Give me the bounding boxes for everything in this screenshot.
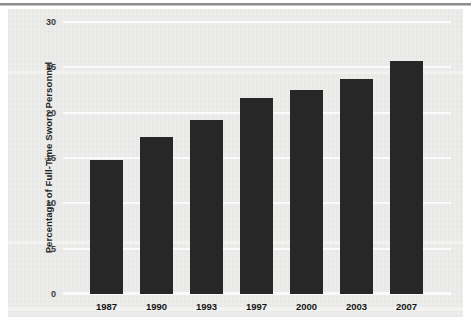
bar-group: 1997 [240,22,273,294]
bar-group: 1987 [90,22,123,294]
x-axis-category-label: 2007 [396,301,417,312]
bar[interactable] [90,160,123,294]
x-axis-category-label: 1987 [96,301,117,312]
y-axis-tick-label: 0 [51,289,56,299]
bar-group: 2000 [290,22,323,294]
scan-band [8,307,463,311]
chart-page: Percentage of Full-Time Sworn Personnel … [0,0,471,322]
x-axis-category-label: 2003 [346,301,367,312]
x-axis-category-label: 1990 [146,301,167,312]
page-top-rule-shadow [0,5,471,6]
bar-group: 2007 [390,22,423,294]
y-axis-tick-label: 10 [46,198,56,208]
bars-group: 1987199019931997200020032007 [63,22,451,294]
y-axis-tick-label: 25 [46,62,56,72]
plot-area: 051015202530 198719901993199720002003200… [63,22,451,294]
bar[interactable] [390,61,423,294]
y-axis-tick-label: 30 [46,17,56,27]
bar[interactable] [190,120,223,294]
bar[interactable] [240,98,273,294]
x-axis-category-label: 1997 [246,301,267,312]
bar-group: 1993 [190,22,223,294]
y-axis-tick-label: 20 [46,108,56,118]
bar[interactable] [140,137,173,294]
y-axis-tick-label: 5 [51,244,56,254]
bar[interactable] [340,79,373,294]
y-axis-tick-label: 15 [46,153,56,163]
bar-group: 2003 [340,22,373,294]
bar[interactable] [290,90,323,294]
bar-group: 1990 [140,22,173,294]
chart-figure-panel: Percentage of Full-Time Sworn Personnel … [8,9,463,317]
x-axis-category-label: 2000 [296,301,317,312]
x-axis-category-label: 1993 [196,301,217,312]
